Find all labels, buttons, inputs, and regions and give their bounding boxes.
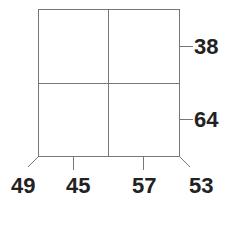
label-bottom-diagonal-left: 49 (11, 175, 35, 197)
label-bottom-left-column: 45 (66, 175, 90, 197)
label-bottom-right-column: 57 (132, 175, 156, 197)
tick-diagonal-left (28, 157, 39, 168)
tick-diagonal-right (180, 157, 191, 168)
label-bottom-diagonal-right: 53 (189, 175, 213, 197)
label-right-bottom: 64 (194, 109, 218, 131)
label-right-top: 38 (194, 36, 218, 58)
